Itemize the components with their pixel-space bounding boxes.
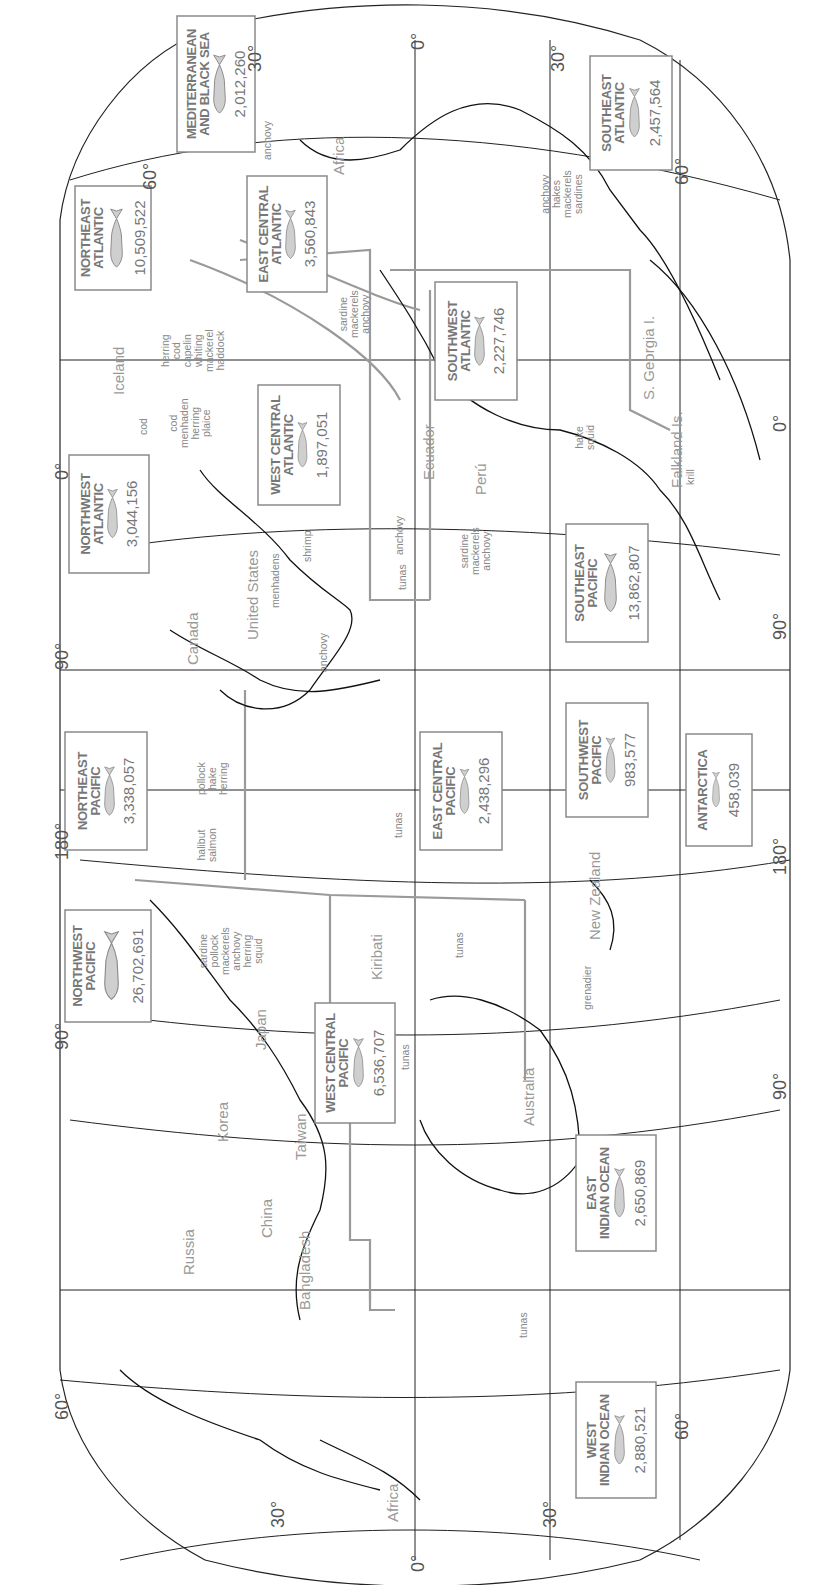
species-label: sardine pollock mackerels anchovy herrin… — [198, 927, 264, 975]
country-label-new-zealand: New Zealand — [586, 852, 603, 940]
fish-icon — [459, 768, 471, 814]
region-name: NORTHEAST ATLANTIC — [79, 199, 105, 277]
country-label-korea: Korea — [214, 1102, 231, 1142]
region-catch: 13,862,807 — [625, 545, 642, 620]
country-label-peru: Perú — [472, 463, 489, 495]
degree-label: 90° — [770, 613, 791, 640]
fish-icon — [711, 772, 721, 808]
region-box-northwest-pacific: NORTHWEST PACIFIC 26,702,691 — [65, 910, 151, 1022]
region-box-southeast-pacific: SOUTHEAST PACIFIC 13,862,807 — [566, 524, 648, 642]
degree-label: 30° — [268, 1501, 289, 1528]
degree-label: 0° — [408, 1555, 429, 1572]
species-label: halibut salmon — [196, 828, 218, 862]
degree-label: 180° — [770, 838, 791, 875]
region-box-west-indian-ocean: WEST INDIAN OCEAN 2,880,521 — [576, 1382, 656, 1498]
country-label-falkland: Falkland Is. — [668, 411, 685, 488]
region-catch: 2,650,869 — [631, 1160, 648, 1227]
species-label: anchovy — [262, 121, 273, 160]
region-box-northeast-atlantic: NORTHEAST ATLANTIC 10,509,522 — [75, 186, 151, 290]
region-name: EAST CENTRAL PACIFIC — [431, 743, 457, 840]
fish-icon — [474, 316, 486, 366]
region-name: EAST CENTRAL ATLANTIC — [257, 186, 283, 283]
species-label: anchovy hakes mackerels sardines — [540, 170, 584, 218]
region-box-mediterranean: MEDITERRANEAN AND BLACK SEA 2,012,260 — [177, 16, 255, 152]
species-label: shrimp — [302, 530, 313, 562]
country-label-iceland: Iceland — [110, 347, 127, 395]
region-catch: 6,536,707 — [370, 1030, 387, 1097]
region-catch: 26,702,691 — [129, 928, 146, 1003]
region-name: EAST INDIAN OCEAN — [585, 1147, 611, 1239]
fish-icon — [605, 737, 617, 783]
region-boxes — [65, 16, 752, 1498]
country-label-ecuador: Ecuador — [420, 424, 437, 480]
region-name: NORTHWEST ATLANTIC — [79, 473, 105, 554]
fish-icon — [628, 88, 642, 138]
region-catch: 2,457,564 — [646, 80, 663, 147]
degree-label: 90° — [770, 1073, 791, 1100]
fish-icon — [297, 422, 309, 468]
country-label-china: China — [258, 1199, 275, 1238]
degree-label: 90° — [52, 1023, 73, 1050]
fish-icon — [213, 54, 227, 114]
region-catch: 2,880,521 — [631, 1407, 648, 1474]
fish-icon — [107, 489, 119, 539]
degree-label: 180° — [52, 823, 73, 860]
degree-label: 60° — [672, 1413, 693, 1440]
region-name: ANTARCTICA — [696, 749, 709, 830]
degree-label: 0° — [408, 33, 429, 50]
region-name: NORTHEAST PACIFIC — [76, 752, 102, 830]
species-label: tunas — [397, 564, 408, 590]
region-box-southeast-atlantic: SOUTHEAST ATLANTIC 2,457,564 — [590, 56, 672, 170]
fish-icon — [352, 1038, 366, 1088]
region-name: MEDITERRANEAN AND BLACK SEA — [185, 29, 211, 139]
country-label-japan: Japan — [252, 1009, 269, 1050]
region-name: SOUTHWEST PACIFIC — [577, 720, 603, 800]
species-label: cod — [138, 418, 149, 435]
region-catch: 3,560,843 — [301, 201, 318, 268]
region-box-east-indian-ocean: EAST INDIAN OCEAN 2,650,869 — [576, 1135, 656, 1251]
species-label: anchovy — [394, 516, 405, 555]
species-label: tunas — [393, 812, 404, 838]
region-name: NORTHWEST PACIFIC — [71, 925, 97, 1006]
region-catch: 2,227,746 — [490, 308, 507, 375]
species-label: cod menhaden herring plaice — [168, 398, 212, 448]
country-label-australia: Australia — [520, 1068, 537, 1126]
degree-label: 30° — [540, 1501, 561, 1528]
species-label: sardine mackerels anchovy — [459, 527, 492, 575]
species-label: herring cod capelin whiting mackerel had… — [160, 329, 226, 372]
species-label: sardine mackerels anchovy — [338, 290, 371, 338]
region-catch: 983,577 — [621, 733, 638, 787]
country-label-kiribati: Kiribati — [368, 934, 385, 980]
region-catch: 2,438,296 — [475, 758, 492, 825]
species-label: hake squid — [574, 425, 596, 450]
species-label: tunas — [400, 1044, 411, 1070]
species-label: pollock hake herring — [196, 762, 229, 795]
species-label: anchovy — [318, 633, 329, 672]
country-label-taiwan: Taiwan — [292, 1113, 309, 1160]
degree-label: 30° — [245, 45, 266, 72]
region-name: SOUTHEAST ATLANTIC — [600, 74, 626, 151]
region-box-northwest-atlantic: NORTHWEST ATLANTIC 3,044,156 — [69, 455, 149, 573]
species-label: tunas — [518, 1312, 529, 1338]
degree-label: 30° — [548, 45, 569, 72]
degree-label: 0° — [52, 463, 73, 480]
fish-icon — [99, 931, 125, 1001]
fish-icon — [285, 209, 297, 259]
fish-icon — [613, 1168, 627, 1218]
country-label-africa-west: Africa — [384, 1484, 401, 1522]
country-label-united-states: United States — [244, 550, 261, 640]
degree-label: 60° — [140, 163, 161, 190]
fish-icon — [601, 553, 621, 613]
region-name: SOUTHEAST PACIFIC — [573, 544, 599, 621]
fish-icon — [104, 766, 116, 816]
species-label: krill — [685, 469, 696, 485]
region-box-southwest-pacific: SOUTHWEST PACIFIC 983,577 — [566, 703, 648, 817]
region-name: WEST CENTRAL PACIFIC — [324, 1013, 350, 1113]
degree-label: 90° — [52, 643, 73, 670]
country-label-russia: Russia — [180, 1229, 197, 1275]
degree-label: 0° — [770, 415, 791, 432]
region-name: SOUTHWEST ATLANTIC — [446, 301, 472, 381]
region-catch: 3,338,057 — [120, 758, 137, 825]
species-label: tunas — [454, 932, 465, 958]
region-catch: 3,044,156 — [123, 481, 140, 548]
